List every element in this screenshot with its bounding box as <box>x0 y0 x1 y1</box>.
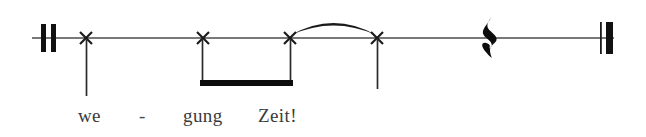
notation-canvas <box>0 0 646 137</box>
barline-thin-stroke <box>600 22 602 54</box>
note-2 <box>197 32 209 83</box>
barline-thick-stroke <box>606 22 613 54</box>
slur-arc <box>291 23 376 35</box>
barline-stroke-1 <box>41 24 46 52</box>
note-4 <box>371 32 383 89</box>
music-notation-figure: we - gung Zeit! <box>0 0 646 137</box>
eighth-beam <box>200 80 293 86</box>
barline-stroke-2 <box>51 24 56 52</box>
note-1 <box>80 32 92 96</box>
note-3 <box>284 32 296 83</box>
